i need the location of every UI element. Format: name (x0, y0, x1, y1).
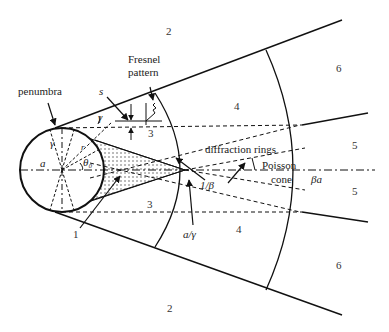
region-6-top: 6 (336, 63, 342, 74)
label-gamma-top: γ (98, 112, 102, 123)
label-r: r (81, 143, 85, 152)
label-beta-a: βa (311, 174, 322, 185)
label-s: s (99, 86, 103, 97)
label-a-over-gamma: a/γ (183, 229, 196, 240)
fresnel-arrow (150, 87, 153, 100)
region-5-bottom: 5 (352, 186, 358, 197)
region-2-top: 2 (166, 26, 172, 37)
shadow-diagram (0, 0, 389, 332)
region-4-bottom: 4 (236, 224, 242, 235)
label-gamma-circle: γ (50, 138, 54, 149)
lower-boundary (55, 212, 342, 315)
label-penumbra: penumbra (18, 86, 62, 97)
region-5-top: 5 (352, 140, 358, 151)
region-3-bottom: 3 (147, 199, 153, 210)
label-poisson-1: Poisson (262, 160, 296, 171)
region-3-top: 3 (148, 128, 154, 139)
label-a: a (40, 158, 46, 169)
label-inv-beta: 1/β (200, 180, 214, 191)
label-fresnel-2: pattern (128, 67, 159, 78)
region-6-bottom: 6 (336, 260, 342, 271)
region-2-bottom: 2 (167, 303, 173, 314)
label-diffraction-rings: diffraction rings (205, 144, 276, 155)
label-fresnel-1: Fresnel (128, 54, 160, 65)
penumbra-arrow (48, 103, 55, 125)
s-arrow (107, 97, 128, 120)
region-1: 1 (73, 229, 79, 240)
label-theta0: θ₀ (83, 157, 92, 168)
label-poisson-2: cone (271, 174, 292, 185)
region-4-top: 4 (234, 101, 240, 112)
